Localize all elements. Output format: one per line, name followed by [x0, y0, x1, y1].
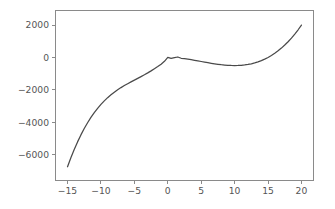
- x-tick-label: 15: [262, 185, 274, 196]
- x-tick-label: −10: [91, 185, 111, 196]
- y-tick-label: 0: [43, 52, 49, 63]
- x-tick-label: 20: [296, 185, 308, 196]
- x-tick-label: 5: [198, 185, 204, 196]
- y-tick-label: −4000: [18, 117, 49, 128]
- figure-canvas: −15−10−505101520 20000−2000−4000−6000: [0, 0, 335, 209]
- y-tick-label: −2000: [18, 84, 49, 95]
- y-tick-label: −6000: [18, 149, 49, 160]
- plot-background: [0, 0, 335, 209]
- y-tick-label: 2000: [26, 19, 50, 30]
- x-tick-label: 0: [165, 185, 171, 196]
- chart-plot: −15−10−505101520 20000−2000−4000−6000: [0, 0, 335, 209]
- x-tick-label: 10: [229, 185, 241, 196]
- x-tick-label: −15: [58, 185, 78, 196]
- x-tick-label: −5: [128, 185, 142, 196]
